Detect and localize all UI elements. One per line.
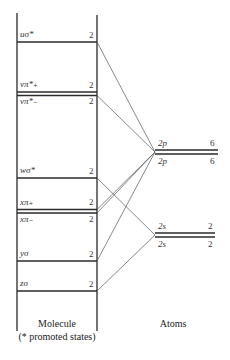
connector-x-pi-minus-2p (97, 152, 155, 213)
level-occupancy: 2 (89, 197, 94, 207)
connector-v-pi-star-2p (97, 96, 155, 153)
level-u-sigma-star: uσ* 2 (17, 29, 97, 42)
molecule-subcaption: (* promoted states) (18, 331, 95, 343)
level-label: 2s (158, 221, 167, 231)
connector-y-sigma-2p (97, 152, 155, 261)
level-label: uσ* (20, 29, 34, 39)
atomic-level-2s: 2s 2 2s 2 (155, 221, 215, 249)
connector-z-sigma-2s (97, 235, 155, 291)
level-v-pi-star-plus: vπ*₊ 2 (17, 79, 97, 92)
level-label: 2p (158, 156, 168, 166)
level-occupancy: 6 (210, 156, 215, 166)
level-label: vπ*₊ (20, 79, 38, 89)
atoms-column: 2p 6 2p 6 2s 2 2s 2 Atoms (155, 138, 218, 329)
level-label: zσ (19, 278, 29, 288)
molecule-column: uσ* 2 vπ*₊ 2 vπ*₋ 2 wσ* 2 xπ₊ 2 xπ₋ 2 (17, 13, 97, 343)
level-w-sigma-star: wσ* 2 (17, 165, 97, 178)
level-label: vπ*₋ (20, 96, 38, 106)
connector-u-sigma-star-2p (97, 42, 155, 152)
level-occupancy: 2 (208, 239, 213, 249)
connector-x-pi-plus-2p (97, 152, 155, 210)
level-label: wσ* (20, 165, 35, 175)
level-occupancy: 2 (89, 80, 94, 90)
level-label: xπ₋ (19, 214, 34, 224)
level-y-sigma: yσ 2 (17, 248, 97, 261)
level-occupancy: 2 (208, 221, 213, 231)
level-label: 2s (158, 239, 167, 249)
level-occupancy: 2 (89, 30, 94, 40)
level-occupancy: 6 (210, 138, 215, 148)
level-occupancy: 2 (89, 249, 94, 259)
atomic-level-2p: 2p 6 2p 6 (155, 138, 218, 166)
level-occupancy: 2 (89, 214, 94, 224)
correlation-diagram: uσ* 2 vπ*₊ 2 vπ*₋ 2 wσ* 2 xπ₊ 2 xπ₋ 2 (0, 0, 230, 360)
level-occupancy: 2 (89, 166, 94, 176)
level-occupancy: 2 (89, 279, 94, 289)
level-v-pi-star-minus: vπ*₋ 2 (17, 96, 97, 107)
level-x-pi-plus: xπ₊ 2 (17, 197, 97, 210)
molecule-caption: Molecule (38, 318, 76, 329)
atoms-caption: Atoms (160, 318, 187, 329)
level-x-pi-minus: xπ₋ 2 (17, 213, 97, 224)
level-label: yσ (19, 248, 29, 258)
level-occupancy: 2 (89, 96, 94, 106)
level-label: 2p (158, 138, 168, 148)
correlation-lines (97, 42, 155, 291)
level-z-sigma: zσ 2 (17, 278, 97, 291)
level-label: xπ₊ (19, 197, 34, 207)
